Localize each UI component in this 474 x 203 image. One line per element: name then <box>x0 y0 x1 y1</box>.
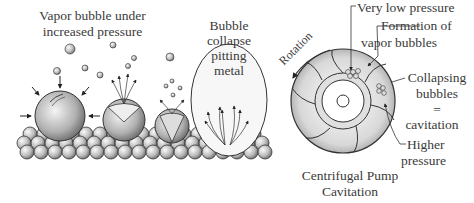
collapse-line2: collapse <box>200 33 258 48</box>
caption-line1: Centrifugal Pump <box>290 168 410 183</box>
cavitation-label: cavitation <box>395 117 469 132</box>
equals-label: = <box>400 102 474 117</box>
title-line2: increased pressure <box>20 24 165 39</box>
collapsing-line2: bubbles <box>400 86 474 101</box>
imploding-bubble-1 <box>103 74 145 141</box>
higher-line1: Higher <box>407 137 445 152</box>
collapsing-line1: Collapsing <box>400 70 474 85</box>
formation-line1: Formation of <box>381 18 452 33</box>
title-line1: Vapor bubble under <box>20 8 165 23</box>
floating-bubbles <box>54 42 183 97</box>
collapse-line4: metal <box>200 63 258 78</box>
very-low-pressure-label: Very low pressure <box>357 0 454 15</box>
collapse-line3: pitting <box>200 48 258 63</box>
collapse-line1: Bubble <box>200 18 258 33</box>
caption-line2: Cavitation <box>290 184 410 199</box>
imploding-bubble-2 <box>155 100 189 143</box>
formation-line2: vapor bubbles <box>361 35 437 50</box>
higher-line2: pressure <box>401 153 446 168</box>
